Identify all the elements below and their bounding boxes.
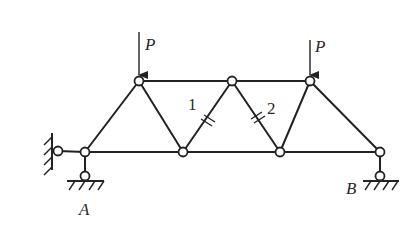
diagonal-b: [280, 81, 310, 152]
joint-bottom-b: [376, 148, 385, 157]
support-b: [363, 152, 399, 190]
diagonal-left-end: [85, 81, 139, 152]
diagonal-a: [139, 81, 183, 152]
load-label-left: P: [144, 35, 155, 54]
joint-top-1: [135, 77, 144, 86]
joint-bottom-3: [276, 148, 285, 157]
joint-top-3: [306, 77, 315, 86]
support-label-b: B: [346, 179, 357, 198]
truss-joints: [81, 77, 385, 157]
truss-diagram: P P 1 2 A B: [0, 0, 415, 227]
joint-bottom-2: [179, 148, 188, 157]
wall-pin: [54, 147, 63, 156]
joint-top-2: [228, 77, 237, 86]
diagonal-right-end: [310, 81, 380, 152]
truss-members: [85, 81, 380, 152]
ground-pin-a: [81, 172, 90, 181]
joint-bottom-a: [81, 148, 90, 157]
member-label-1: 1: [188, 95, 197, 114]
support-a: [44, 133, 104, 190]
load-label-right: P: [314, 37, 325, 56]
support-label-a: A: [78, 200, 90, 219]
ground-pin-b: [376, 172, 385, 181]
member-label-2: 2: [267, 99, 276, 118]
